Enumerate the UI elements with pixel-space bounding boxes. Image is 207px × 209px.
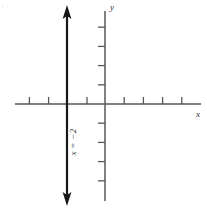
graph-canvas	[0, 0, 207, 209]
x-axis-group	[15, 97, 201, 104]
line-equation-label: x = −2	[68, 114, 78, 170]
y-axis-label: y	[110, 3, 114, 12]
y-axis-group	[98, 11, 105, 201]
plotted-line-group	[63, 5, 72, 206]
x-axis-label: x	[196, 110, 200, 119]
coordinate-plane-figure: ' y x x =	[0, 0, 207, 209]
